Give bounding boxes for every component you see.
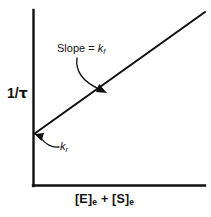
- slope-rate-constant-subscript: f: [103, 47, 105, 56]
- intercept-rate-constant-symbol: k: [60, 140, 66, 152]
- x-axis-label-operator: +: [97, 192, 112, 206]
- slope-annotation-text: Slope =: [57, 42, 98, 54]
- x-axis-label: [E]e + [S]e: [75, 193, 134, 206]
- x-axis-label-term2-subscript: e: [129, 197, 134, 207]
- intercept-pointer-curve: [41, 138, 59, 147]
- relaxation-kinetics-plot: 1/τ [E]e + [S]e Slope = kf kr: [0, 0, 211, 217]
- x-axis-label-term1: [E]: [75, 192, 92, 206]
- tau-symbol: τ: [19, 85, 28, 101]
- x-axis-label-term1-subscript: e: [92, 197, 97, 207]
- y-axis-label: 1/τ: [7, 86, 28, 100]
- x-axis-label-term2: [S]: [112, 192, 129, 206]
- plot-canvas: [0, 0, 211, 217]
- slope-annotation-label: Slope = kf: [57, 43, 105, 54]
- data-line: [34, 12, 205, 134]
- intercept-rate-constant-subscript: r: [66, 145, 69, 154]
- y-axis-label-prefix: 1/: [7, 85, 19, 101]
- slope-pointer-curve: [77, 58, 99, 89]
- intercept-annotation-label: kr: [60, 141, 68, 152]
